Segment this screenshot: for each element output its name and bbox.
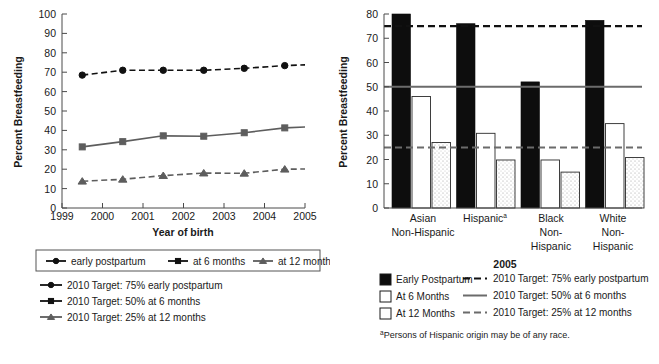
right-legend: Early PostpartumAt 6 MonthsAt 12 Months2… [380, 273, 648, 319]
bar-g0-s0 [392, 14, 411, 208]
footnote-text: Persons of Hispanic origin may be of any… [384, 330, 570, 340]
right-ytick-70: 70 [366, 32, 378, 44]
bar-g3-s1 [606, 124, 625, 208]
left-point-s1-5 [282, 125, 288, 131]
right-ytick-30: 30 [366, 129, 378, 141]
left-point-s0-6 [322, 61, 328, 67]
left-target-marker-0 [48, 282, 53, 287]
right-legend-swatch-label-0: Early Postpartum [396, 274, 473, 285]
right-ytick-50: 50 [366, 81, 378, 93]
left-ytick-20: 20 [44, 163, 56, 175]
left-xtick-2000: 2000 [91, 210, 115, 222]
cat-white-l1: White [600, 212, 627, 224]
left-ytick-50: 50 [44, 105, 56, 117]
cat-white-l3: Hispanic [593, 240, 633, 252]
left-ytick-30: 30 [44, 144, 56, 156]
right-footnote: aPersons of Hispanic origin may be of an… [380, 329, 570, 340]
left-xtick-2003: 2003 [212, 210, 236, 222]
right-y-ticks [384, 14, 389, 208]
bar-g1-s2 [497, 160, 516, 208]
bar-g1-s1 [477, 133, 496, 208]
left-point-s1-2 [160, 133, 166, 139]
cat-black-l3: Hispanic [531, 240, 571, 252]
right-legend-swatch-2 [380, 308, 391, 319]
left-ytick-90: 90 [44, 27, 56, 39]
left-point-s1-1 [120, 139, 126, 145]
bar-g3-s2 [626, 158, 645, 208]
left-target-label-0: 2010 Target: 75% early postpartum [67, 280, 222, 291]
left-ytick-80: 80 [44, 47, 56, 59]
left-point-s0-4 [241, 65, 247, 71]
left-point-s2-6 [321, 165, 329, 171]
right-chart-svg: Percent Breastfeeding 80 70 60 50 40 30 … [330, 0, 659, 364]
left-point-s0-1 [120, 67, 126, 73]
right-y-axis-title: Percent Breastfeeding [337, 56, 349, 167]
left-legend-targets: 2010 Target: 75% early postpartum2010 Ta… [40, 280, 222, 323]
bar-g0-s1 [412, 96, 431, 208]
bar-g2-s2 [561, 172, 580, 208]
left-point-s0-3 [201, 67, 207, 73]
right-plot-group [384, 14, 644, 208]
left-x-ticks [62, 203, 305, 208]
left-legend-top: early postpartumat 6 monthsat 12 months [46, 256, 330, 267]
left-legend-label-0: early postpartum [71, 256, 145, 267]
right-ytick-60: 60 [366, 57, 378, 69]
left-point-s1-4 [241, 130, 247, 136]
left-ytick-40: 40 [44, 124, 56, 136]
bar-g2-s0 [521, 82, 540, 208]
left-ytick-70: 70 [44, 66, 56, 78]
left-point-s1-0 [79, 144, 85, 150]
right-legend-refline-label-2: 2010 Target: 25% at 12 months [493, 307, 632, 318]
left-xtick-2002: 2002 [172, 210, 196, 222]
left-series-group [78, 61, 329, 184]
left-legend-label-2: at 12 months [278, 256, 330, 267]
right-ytick-80: 80 [366, 8, 378, 20]
right-legend-swatch-label-2: At 12 Months [396, 308, 455, 319]
left-xtick-2004: 2004 [253, 210, 277, 222]
left-legend-label-1: at 6 months [193, 256, 245, 267]
right-legend-refline-label-0: 2010 Target: 75% early postpartum [493, 273, 648, 284]
left-point-s0-2 [160, 67, 166, 73]
bar-g1-s0 [457, 24, 476, 208]
right-category-labels: Asian Non-Hispanic Hispanica Black Non- … [391, 212, 633, 252]
cat-hispanic-superscript: a [503, 212, 507, 219]
right-ytick-20: 20 [366, 154, 378, 166]
bar-g0-s2 [432, 143, 451, 208]
left-chart-svg: Percent Breastfeeding 100 90 80 70 60 50… [0, 0, 330, 364]
right-legend-swatch-1 [380, 291, 391, 302]
left-x-tick-labels: 1999 2000 2001 2002 2003 2004 2005 [50, 210, 317, 222]
left-y-axis-title: Percent Breastfeeding [12, 56, 24, 167]
left-point-s0-5 [282, 62, 288, 68]
cat-black-l2: Non- [540, 226, 563, 238]
right-y-tick-labels: 80 70 60 50 40 30 20 10 0 [366, 8, 378, 214]
left-x-axis-title: Year of birth [152, 226, 213, 238]
cat-black-l1: Black [538, 212, 564, 224]
left-target-label-2: 2010 Target: 25% at 12 months [67, 312, 206, 323]
left-y-tick-labels: 100 90 80 70 60 50 40 30 20 10 0 [38, 8, 56, 214]
left-ytick-60: 60 [44, 86, 56, 98]
right-legend-swatch-label-1: At 6 Months [396, 291, 449, 302]
right-ytick-10: 10 [366, 178, 378, 190]
left-ytick-10: 10 [44, 183, 56, 195]
left-legend-marker-0 [53, 258, 58, 263]
left-xtick-1999: 1999 [50, 210, 74, 222]
left-point-s0-0 [79, 72, 85, 78]
left-xtick-2001: 2001 [131, 210, 155, 222]
left-point-s1-3 [201, 133, 207, 139]
right-ytick-0: 0 [372, 202, 378, 214]
left-chart-panel: Percent Breastfeeding 100 90 80 70 60 50… [0, 0, 330, 364]
left-legend-marker-1 [175, 258, 180, 263]
right-legend-refline-label-1: 2010 Target: 50% at 6 months [493, 290, 626, 301]
right-chart-panel: Percent Breastfeeding 80 70 60 50 40 30 … [330, 0, 659, 364]
right-x-axis-title: 2005 [493, 258, 517, 270]
bar-g3-s0 [586, 20, 605, 208]
right-ytick-40: 40 [366, 105, 378, 117]
bar-g2-s1 [541, 160, 560, 208]
cat-white-l2: Non- [602, 226, 625, 238]
left-ytick-100: 100 [38, 8, 56, 20]
cat-asian-l1: Asian [410, 212, 436, 224]
left-target-label-1: 2010 Target: 50% at 6 months [67, 296, 200, 307]
cat-hispanic-l1: Hispanica [463, 212, 507, 224]
cat-asian-l2: Non-Hispanic [391, 226, 454, 238]
left-axis-lines [62, 14, 305, 208]
